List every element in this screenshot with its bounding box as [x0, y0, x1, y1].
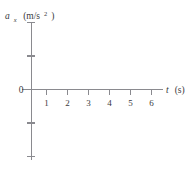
x-tick-label-6: 6: [149, 98, 154, 108]
y-axis-label-symbol: a: [5, 11, 10, 21]
y-axis-label: a x (m/s 2 ): [5, 2, 54, 25]
x-axis-label: t (s): [166, 79, 185, 96]
y-axis-label-subscript: x: [13, 16, 17, 23]
x-axis-label-symbol: t: [166, 85, 169, 95]
axes-svg: 0 1 2 3 4 5 6 t (s) a x (m/s 2 ): [0, 0, 188, 169]
x-tick-label-5: 5: [128, 98, 133, 108]
y-axis-label-units-exponent: 2: [44, 10, 47, 17]
x-tick-label-4: 4: [107, 98, 112, 108]
origin-label: 0: [19, 85, 24, 95]
x-tick-label-1: 1: [44, 98, 49, 108]
x-tick-label-2: 2: [65, 98, 70, 108]
x-tick-label-3: 3: [86, 98, 91, 108]
graph-figure: 0 1 2 3 4 5 6 t (s) a x (m/s 2 ): [0, 0, 188, 169]
x-axis-label-units: (s): [175, 85, 185, 96]
y-axis-label-units-prefix: (m/s: [23, 11, 40, 22]
y-axis-label-units-suffix: ): [51, 11, 54, 22]
